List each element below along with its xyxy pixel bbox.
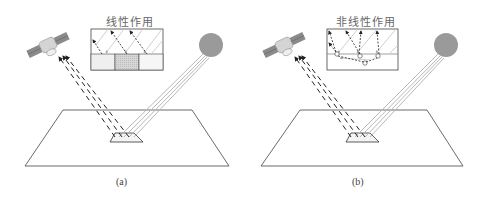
inset-nonlinear (327, 29, 398, 70)
mixing-diagram (0, 0, 481, 198)
pixel-2 (115, 54, 139, 70)
inset-linear (91, 29, 163, 70)
panel-a (25, 29, 229, 166)
panel-b (261, 29, 463, 166)
satellite-icon (262, 30, 309, 64)
inset-title-linear: 线性作用 (106, 13, 154, 29)
pixel-1 (91, 54, 115, 70)
caption-b: (b) (352, 176, 364, 187)
satellite-icon (26, 30, 73, 64)
inset-title-nonlinear: 非线性作用 (336, 13, 396, 29)
caption-a: (a) (116, 176, 127, 187)
sun-icon (434, 33, 458, 57)
sun-icon (199, 33, 223, 57)
pixel-3 (139, 54, 163, 70)
